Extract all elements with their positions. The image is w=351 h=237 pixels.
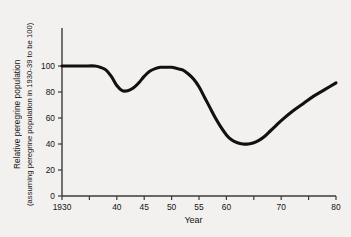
chart-series-lines [62,66,336,144]
series-line [62,66,336,144]
y-axis-label-line-1: Relative peregrine population [10,14,24,214]
x-tick-label: 1930 [53,202,72,212]
x-tick-label: 40 [112,202,122,212]
y-tick-label: 20 [46,165,56,175]
y-tick-label: 80 [46,87,56,97]
y-tick-label: 0 [50,191,55,201]
chart-axes [62,28,336,196]
x-axis-label-text: Year [184,215,202,225]
x-tick-label: 55 [194,202,204,212]
y-tick-label: 60 [46,113,56,123]
y-tick-label: 40 [46,139,56,149]
chart-figure: Relative peregrine population (assuming … [0,0,351,237]
y-axis-label-line-2: (assuming peregrine population in 1930-3… [23,14,37,214]
x-axis-label: Year [0,215,351,225]
chart-tick-labels: 020406080100193040455055607080 [41,61,341,211]
x-tick-label: 70 [277,202,287,212]
x-tick-label: 45 [140,202,150,212]
x-tick-label: 80 [331,202,341,212]
x-tick-label: 60 [222,202,232,212]
x-tick-label: 50 [167,202,177,212]
chart-plot-area: 020406080100193040455055607080 [0,0,351,237]
y-axis-label: Relative peregrine population (assuming … [10,14,44,214]
